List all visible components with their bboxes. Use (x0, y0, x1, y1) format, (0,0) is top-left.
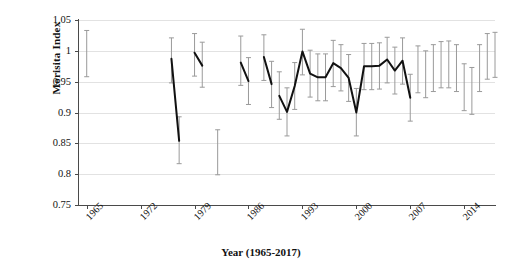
data-series (0, 0, 522, 273)
series-line-segment (171, 59, 179, 141)
series-line-segment (241, 63, 249, 82)
series-line-segment (279, 51, 410, 112)
series-line-segment (195, 53, 203, 66)
chart-figure: 0.750.80.850.90.9511.05 1965197219791986… (0, 0, 522, 273)
series-lines (171, 51, 410, 140)
